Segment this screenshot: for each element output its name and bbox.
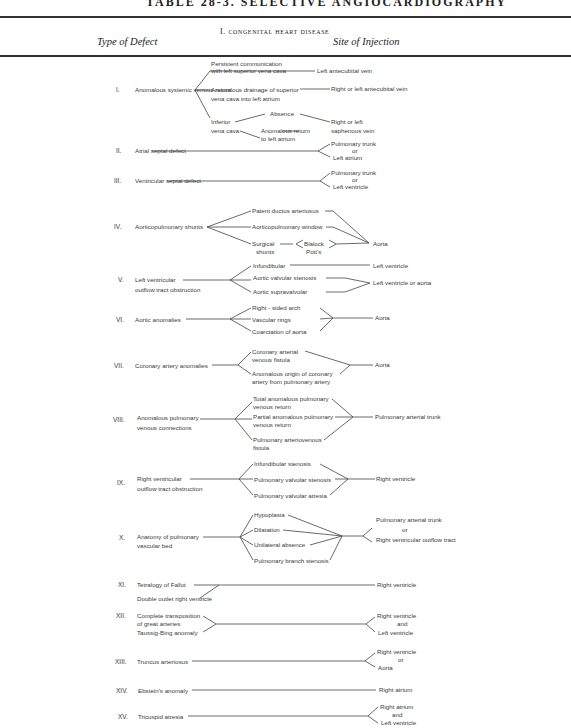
row-number: III. (114, 177, 121, 184)
injection-site: Aorta (375, 361, 390, 369)
defect-name: Ebstein's anomaly (138, 687, 188, 695)
injection-site: Right atrium (380, 703, 413, 711)
subtype: Surgical (252, 240, 274, 248)
subtype: Pott's (306, 248, 321, 256)
subtype: venous return (253, 403, 291, 411)
row-number: XIII. (115, 658, 127, 665)
row-number: IX. (117, 479, 125, 486)
defect-name: Truncus arteriosus (137, 658, 188, 666)
subtype: Partial anomalous pulmonary (253, 413, 333, 421)
subtype: venous fistula (252, 356, 290, 364)
injection-site: Pulmonary arterial trunk (375, 413, 441, 421)
row-number: X. (119, 534, 125, 541)
subtype: Anomalous return (261, 127, 310, 135)
injection-site: Right ventricle (376, 475, 415, 483)
row-number: II. (116, 147, 121, 154)
injection-site: Left ventricle (333, 183, 368, 191)
row-number: XI. (118, 581, 126, 588)
injection-site: or (398, 656, 404, 664)
injection-site: Left ventricle (373, 262, 408, 270)
subtype: Aortic valvular stenosis (253, 274, 316, 282)
injection-site: Aorta (373, 240, 388, 248)
row-number: V. (118, 276, 124, 283)
subtype: fistula (253, 444, 269, 452)
defect-name-line2: of great arteries (137, 620, 180, 628)
injection-site: Right atrium (379, 686, 412, 694)
subtype: vena cava into left atrium (211, 95, 280, 103)
subtype: Unilateral absence (254, 541, 305, 549)
injection-site: Right or left (331, 118, 363, 126)
subtype: to left atrium (261, 135, 295, 143)
subtype: shunts (256, 248, 274, 256)
row-number: IV. (114, 223, 121, 230)
defect-name: Anomalous pulmonary (137, 414, 199, 422)
subtype: Inferior (211, 118, 230, 126)
defect-name: Aorticopulmonary shunts (135, 223, 203, 231)
injection-site: Left ventricle (381, 719, 416, 727)
injection-site: Left ventricle (378, 629, 413, 637)
defect-name: Tetralogy of Fallot (137, 581, 186, 589)
subtype: with left superior vena cava (211, 67, 286, 75)
injection-site: Right ventricle (377, 648, 416, 656)
defect-name-line3: Taussig-Bing anomaly (137, 629, 198, 637)
row-number: VI. (116, 316, 124, 323)
injection-site: Pulmonary arterial trunk (376, 516, 442, 524)
defect-name: Atrial septal defect (135, 147, 186, 155)
injection-site: Left antecubital vein (317, 67, 372, 75)
defect-name: Tricuspid atresia (138, 713, 183, 721)
row-number: XIV. (116, 687, 128, 694)
defect-name: Aortic anomalies (135, 316, 181, 324)
subtype: Right - sided arch (252, 304, 301, 312)
defect-name: Left ventricular (135, 276, 176, 284)
subtype: Infundibular stenosis (254, 460, 311, 468)
defect-name: Complete transposition (137, 612, 200, 620)
row-number: VIII. (113, 416, 125, 423)
defect-name-line2: vascular bed (137, 542, 172, 550)
subtype: Patent ductus arteriosus (252, 207, 319, 215)
defect-name-line2: venous connections (137, 424, 192, 432)
injection-site: Right ventricle (377, 612, 416, 620)
subtype: Coarctation of aorta (252, 328, 306, 336)
injection-site: Right ventricle (377, 581, 416, 589)
injection-site: and (397, 620, 407, 628)
subtype: Infundibular (253, 262, 285, 270)
subtype: Total anomalous pulmonary (253, 395, 329, 403)
injection-site: saphenous vein (331, 127, 374, 135)
subtype: venous return (253, 421, 291, 429)
defect-name-line2: outflow tract obstruction (137, 485, 202, 493)
subtype: Absence (270, 110, 294, 118)
injection-site: Right ventricular outflow tract (376, 536, 456, 544)
row-number: VII. (114, 362, 124, 369)
injection-site: Aorta (378, 664, 393, 672)
subtype: Anomalous origin of coronary (252, 370, 332, 378)
defect-name: Ventricular septal defect (135, 177, 201, 185)
injection-site: Aorta (375, 314, 390, 322)
injection-site: and (392, 711, 402, 719)
injection-site: Left atrium (333, 154, 362, 162)
subtype: Aorticopulmonary window (252, 223, 323, 231)
subtype: Anomalous drainage of superior (211, 86, 299, 94)
injection-site: Left ventricle or aorta (373, 279, 431, 287)
defect-name: Anatomy of pulmonary (137, 533, 199, 541)
defect-name: Coronary artery anomalies (135, 362, 208, 370)
subtype: Vascular rings (252, 316, 291, 324)
subtype: Pulmonary valvular stenosis (254, 476, 331, 484)
row-number: I. (116, 86, 120, 93)
row-number: XII. (116, 612, 126, 619)
subtype: vena cava (211, 127, 239, 135)
subtype: Pulmonary branch stenosis (254, 557, 329, 565)
subtype: Aortic supravalvular (253, 288, 307, 296)
subtype: Dilatation (254, 526, 280, 534)
subtype: Pulmonary arteriovenous (253, 436, 322, 444)
injection-site: or (402, 526, 408, 534)
row-number: XV. (118, 713, 128, 720)
subtype: Pulmonary valvular atresia (254, 492, 327, 500)
defect-name-line2: Double outlet right ventricle (137, 595, 212, 603)
defect-name-line2: outflow tract obstruction (135, 286, 200, 294)
subtype: Blalock (304, 240, 324, 248)
injection-site: Right or left antecubital vein (331, 85, 407, 93)
subtype: Hypoplasia (254, 511, 285, 519)
defect-name: Right ventricular (137, 475, 182, 483)
subtype: artery from pulmonary artery (252, 378, 330, 386)
subtype: Coronary arterial (252, 348, 298, 356)
